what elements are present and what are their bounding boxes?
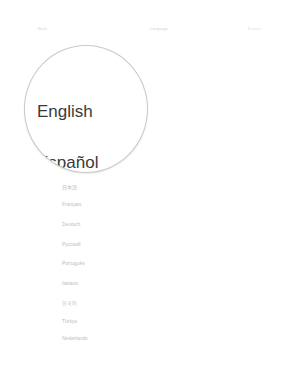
language-item[interactable]: Português — [62, 260, 85, 266]
done-button[interactable]: Done — [248, 26, 262, 31]
language-item[interactable]: 한국어 — [62, 299, 77, 306]
magnifier-loupe: English Español — [24, 45, 148, 173]
language-item-magnified[interactable]: English — [37, 102, 93, 122]
language-item[interactable]: Italiano — [62, 280, 78, 286]
back-button[interactable]: Back — [38, 26, 47, 31]
language-item-magnified[interactable]: Español — [37, 153, 98, 173]
language-item[interactable]: Français — [62, 201, 81, 207]
navigation-bar: Back Language Done — [0, 0, 288, 40]
page-title: Language — [150, 26, 168, 31]
language-item[interactable]: Nederlands — [62, 335, 88, 341]
language-item[interactable]: Deutsch — [62, 221, 80, 227]
language-item[interactable]: Türkçe — [62, 318, 77, 324]
language-item[interactable]: 日本語 — [62, 183, 77, 190]
language-item[interactable]: Русский — [62, 241, 81, 247]
